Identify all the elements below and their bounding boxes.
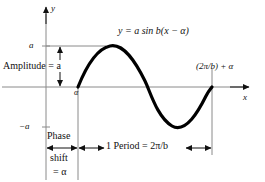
y-tick-label-a: a	[29, 41, 34, 50]
x-axis-label: x	[243, 93, 247, 102]
y-tick-label-negative-a: −a	[19, 122, 30, 131]
period-end-annotation: (2π/b) + α	[196, 62, 233, 71]
amplitude-annotation: Amplitude = a	[3, 61, 61, 71]
y-axis-label: y	[51, 4, 55, 13]
shift-label: shift	[50, 153, 68, 163]
equation-label: y = a sin b(x − α)	[118, 26, 189, 36]
period-annotation: 1 Period = 2π/b	[106, 141, 168, 151]
x-tick-label-alpha: α	[74, 89, 78, 97]
phase-label: Phase	[47, 131, 70, 141]
shift-value-label: = α	[53, 167, 66, 177]
trigonometric-graph-figure: y = a sin b(x − α) y x a −a α Amplitude …	[0, 0, 265, 182]
